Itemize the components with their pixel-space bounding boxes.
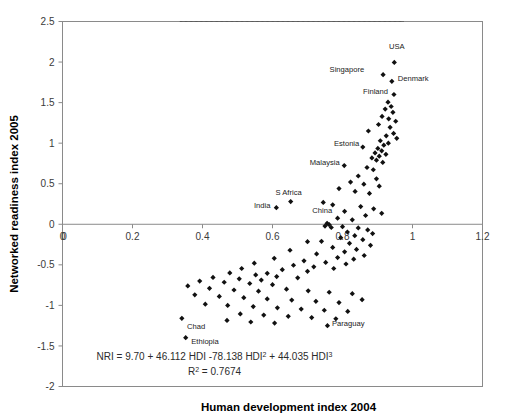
x-tick-label: 1 [410, 231, 416, 242]
y-tick-label: -0.5 [37, 259, 55, 270]
country-label-malaysia: Malaysia [310, 158, 341, 167]
y-tick-label: 1.5 [41, 97, 55, 108]
y-tick-label: -1 [46, 300, 55, 311]
country-label-chad: Chad [187, 322, 205, 331]
country-label-singapore: Singapore [330, 65, 365, 74]
y-tick-label: 2.5 [41, 16, 55, 27]
x-tick-label: 0.4 [196, 231, 210, 242]
y-axis-title: Networked readiness index 2005 [8, 115, 20, 293]
country-label-paraguay: Paraguay [332, 319, 365, 328]
y-tick-label: 2 [49, 57, 55, 68]
x-tick-label: 0.6 [266, 231, 280, 242]
y-tick-label: -2 [46, 381, 55, 392]
origin-label: 0 [61, 231, 67, 242]
country-label-ethiopia: Ethiopia [191, 337, 219, 346]
country-label-india: India [254, 201, 271, 210]
country-label-s-africa: S Africa [276, 188, 303, 197]
y-tick-label: 1 [49, 138, 55, 149]
country-label-estonia: Estonia [334, 139, 360, 148]
regression-equation: NRI = 9.70 + 46.112 HDI -78.138 HDI2 + 4… [97, 351, 333, 363]
country-label-usa: USA [389, 42, 406, 51]
x-tick-label: 0.2 [126, 231, 140, 242]
y-tick-label: 0 [49, 219, 55, 230]
x-tick-label: 1.2 [476, 231, 490, 242]
country-label-denmark: Denmark [398, 74, 429, 83]
chart-canvas: 00.20.40.60.811.20 2.521.510.50-0.5-1-1.… [0, 0, 509, 419]
scatter-chart: 00.20.40.60.811.20 2.521.510.50-0.5-1-1.… [0, 0, 509, 419]
y-tick-label: 0.5 [41, 178, 55, 189]
x-axis-title: Human development index 2004 [201, 401, 377, 413]
y-tick-label: -1.5 [37, 341, 55, 352]
country-label-china: China [312, 206, 333, 215]
country-label-finland: Finland [363, 87, 388, 96]
